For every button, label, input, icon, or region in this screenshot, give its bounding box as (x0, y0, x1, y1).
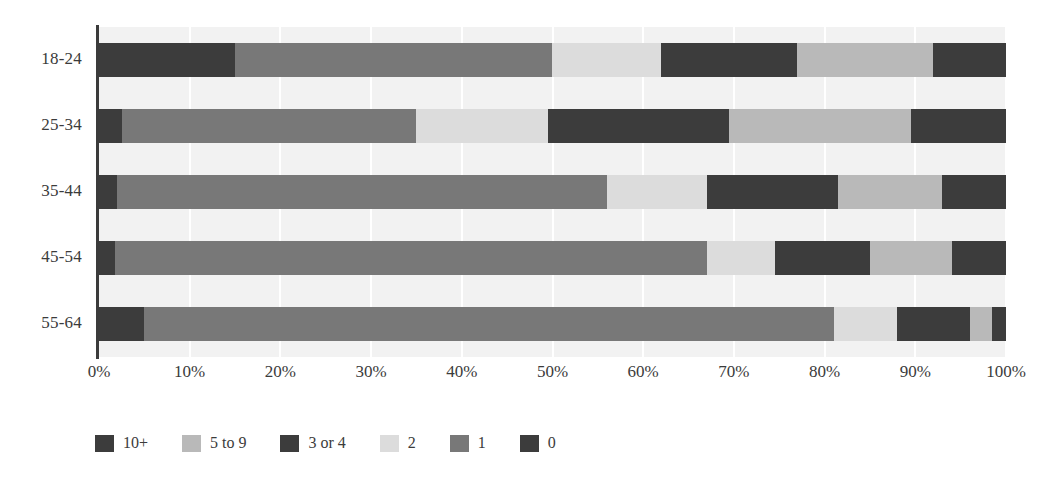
legend-item[interactable]: 0 (520, 434, 556, 452)
bar-row (99, 109, 1006, 143)
legend-label: 10+ (123, 434, 148, 452)
bar-segment (933, 43, 1006, 77)
bar-segment (952, 241, 1006, 275)
bar-segment (992, 307, 1006, 341)
legend-item[interactable]: 10+ (95, 434, 148, 452)
legend-item[interactable]: 2 (380, 434, 416, 452)
bar-segment (99, 307, 144, 341)
legend-label: 0 (548, 434, 556, 452)
x-axis-tick: 70% (718, 362, 749, 382)
x-axis-tick: 100% (986, 362, 1026, 382)
x-axis-tick: 30% (356, 362, 387, 382)
bar-segment (607, 175, 707, 209)
bar-row (99, 43, 1006, 77)
x-axis-tick: 20% (265, 362, 296, 382)
bar-segment (870, 241, 952, 275)
x-axis-tick: 60% (628, 362, 659, 382)
bar-segment (144, 307, 833, 341)
legend-swatch-icon (280, 435, 299, 452)
legend-item[interactable]: 5 to 9 (182, 434, 246, 452)
bar-segment (707, 241, 775, 275)
y-axis-label: 55-64 (0, 313, 82, 333)
legend-item[interactable]: 1 (450, 434, 486, 452)
y-axis-label: 18-24 (0, 49, 82, 69)
legend-label: 2 (408, 434, 416, 452)
bar-segment (707, 175, 839, 209)
legend-swatch-icon (450, 435, 469, 452)
bar-segment (99, 241, 115, 275)
bar-segment (99, 175, 117, 209)
stacked-bar-chart: 18-2425-3435-4445-5455-64 0%10%20%30%40%… (0, 0, 1062, 479)
bar-segment (942, 175, 1005, 209)
bar-segment (775, 241, 870, 275)
bar-segment (834, 307, 897, 341)
bar-segment (897, 307, 970, 341)
y-axis-label: 45-54 (0, 247, 82, 267)
bar-segment (729, 109, 910, 143)
bar-segment (552, 43, 661, 77)
x-axis-tick: 80% (809, 362, 840, 382)
legend-label: 3 or 4 (308, 434, 345, 452)
bar-segment (911, 109, 1006, 143)
x-axis-tick: 90% (900, 362, 931, 382)
bar-segment (99, 43, 235, 77)
x-axis-tick-labels: 0%10%20%30%40%50%60%70%80%90%100% (99, 362, 1006, 392)
plot-area (99, 27, 1006, 357)
bar-segment (117, 175, 607, 209)
bar-row (99, 307, 1006, 341)
legend-item[interactable]: 3 or 4 (280, 434, 345, 452)
bar-segment (970, 307, 993, 341)
y-axis-category-labels: 18-2425-3435-4445-5455-64 (0, 27, 92, 357)
legend-label: 5 to 9 (210, 434, 246, 452)
legend-swatch-icon (380, 435, 399, 452)
bar-segment (235, 43, 552, 77)
bar-segment (661, 43, 797, 77)
bar-row (99, 175, 1006, 209)
bar-segment (548, 109, 729, 143)
bar-segment (122, 109, 417, 143)
legend-swatch-icon (520, 435, 539, 452)
y-axis-label: 35-44 (0, 181, 82, 201)
bar-segment (416, 109, 548, 143)
legend-swatch-icon (95, 435, 114, 452)
x-axis-tick: 50% (537, 362, 568, 382)
x-axis-tick: 10% (174, 362, 205, 382)
x-axis-tick: 40% (446, 362, 477, 382)
bar-segment (99, 109, 122, 143)
y-axis-label: 25-34 (0, 115, 82, 135)
bar-series-container (99, 27, 1006, 357)
chart-legend: 10+5 to 93 or 4210 (95, 434, 590, 452)
legend-label: 1 (478, 434, 486, 452)
legend-swatch-icon (182, 435, 201, 452)
bar-segment (797, 43, 933, 77)
bar-segment (115, 241, 706, 275)
bar-segment (838, 175, 942, 209)
x-axis-tick: 0% (88, 362, 111, 382)
bar-row (99, 241, 1006, 275)
